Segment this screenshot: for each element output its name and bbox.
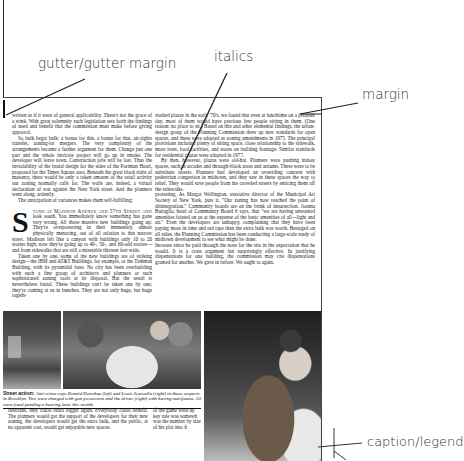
drop-cap: S [12,210,29,234]
magazine-page: written as if it were of general applica… [3,97,322,461]
caption-lead: Street action: [3,391,34,396]
paragraph: destrians, they could build bigger again… [8,408,148,431]
gutter-marker [3,100,5,118]
text-column-3: destrians, they could build bigger again… [8,408,148,431]
text-column-4: of the game were up key rule was somewh … [153,408,203,431]
paragraph: Increase since he paid through the nose … [155,243,315,266]
photo-center-table [63,311,201,389]
paragraph: look south. You immediately know somethi… [12,213,152,253]
annotation-margin-label: margin [362,86,409,102]
annotation-italics-label: italics [214,48,253,64]
annotation-gutter-label: gutter/gutter margin [38,55,176,71]
paragraph: By then, however, plazas were old-hat. P… [155,158,315,192]
photo-left [3,311,61,389]
paragraph: protesting. As Margot Wellington, execut… [155,192,315,243]
paragraph: of the game were up key rule was somewh … [153,408,203,431]
annotation-caption-label: caption/legend [367,434,464,449]
text-column-1: written as if it were of general applica… [12,113,152,299]
paragraph: studied plazas in the early '70's, we fo… [155,113,315,158]
paragraph: written as if it were of general applica… [12,113,152,136]
photo-right-street-arrest [204,311,321,461]
section-opening: S tand at Madison Avenue and 57th Street… [12,209,152,254]
paragraph: Taken one by one, some of the new buildi… [12,254,152,299]
paragraph: The anticipation of variances makes them… [12,198,152,204]
photo-spread: Street action: Anti-crime cops Ronald Do… [3,311,321,461]
text-column-2: studied plazas in the early '70's, we fo… [155,113,315,266]
paragraph: So bulk begat bulk: a bonus for this, a … [12,136,152,198]
